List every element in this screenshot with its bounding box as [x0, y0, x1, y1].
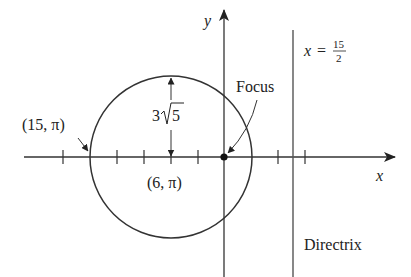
directrix-equation: x = 15 2 [303, 38, 346, 64]
focus-leader-arrow [228, 100, 257, 153]
x-axis-label: x [375, 167, 383, 184]
semi-minor-label: 3 5 [152, 103, 184, 124]
svg-text:x: x [303, 42, 311, 59]
diagram: y x (15, π) (6, π) 3 5 Focus x = 15 2 Di… [0, 0, 411, 277]
svg-text:2: 2 [336, 52, 342, 64]
svg-text:15: 15 [333, 38, 345, 50]
focus-point [220, 153, 227, 160]
focus-label: Focus [236, 78, 274, 95]
svg-text:5: 5 [172, 107, 180, 124]
y-axis-label: y [202, 12, 212, 30]
directrix-label: Directrix [304, 236, 362, 253]
svg-text:3: 3 [152, 107, 160, 124]
center-label: (6, π) [147, 174, 182, 192]
vertex-label: (15, π) [22, 116, 65, 134]
vertex-leader-arrow [78, 138, 88, 151]
svg-text:=: = [317, 42, 326, 59]
